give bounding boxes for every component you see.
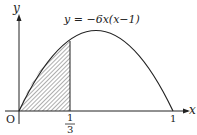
tick-third-denominator: 3: [67, 125, 73, 135]
shaded-area: [19, 41, 70, 111]
tick-third-numerator: 1: [67, 113, 73, 123]
function-label: y = −6x(x−1): [64, 14, 140, 25]
y-axis-label: y: [13, 2, 20, 14]
x-axis-label: x: [189, 104, 196, 116]
tick-one-label: 1: [170, 114, 176, 124]
origin-label: O: [6, 114, 15, 125]
y-axis-arrow-icon: [17, 14, 22, 21]
